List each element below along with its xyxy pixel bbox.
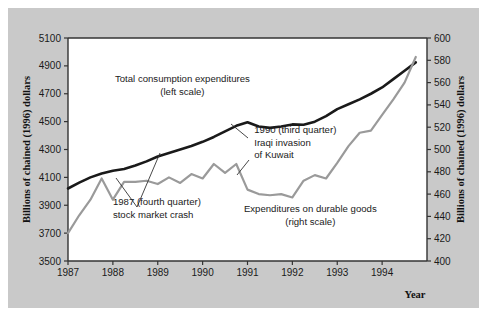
y-tick-label-left: 3900: [39, 200, 62, 211]
y-tick-label-left: 4900: [39, 60, 62, 71]
x-tick-label: 1994: [371, 267, 394, 278]
annotation-line: stock market crash: [113, 209, 194, 220]
x-axis-title: Year: [405, 289, 426, 300]
x-tick-label: 1992: [281, 267, 304, 278]
y-tick-label-right: 520: [434, 122, 451, 133]
annotation-line: of Kuwait: [254, 149, 294, 160]
plot-background: [68, 38, 427, 261]
y-tick-label-right: 580: [434, 55, 451, 66]
x-tick-label: 1988: [102, 267, 125, 278]
y-tick-label-right: 480: [434, 166, 451, 177]
y-tick-label-right: 440: [434, 211, 451, 222]
line-chart-svg: 3500370039004100430045004700490051004004…: [8, 8, 479, 308]
y-tick-label-left: 3500: [39, 256, 62, 267]
annotation-line: Total consumption expenditures: [115, 73, 250, 84]
y-axis-title-right: Billions of chained (1996) dollars: [455, 76, 467, 223]
x-tick-label: 1990: [192, 267, 215, 278]
y-tick-label-left: 4100: [39, 172, 62, 183]
y-tick-label-right: 500: [434, 144, 451, 155]
annotation-line: 1990 (third quarter): [254, 124, 336, 135]
y-tick-label-left: 4700: [39, 88, 62, 99]
annotation-line: Expenditures on durable goods: [244, 203, 377, 214]
figure-panel: 3500370039004100430045004700490051004004…: [8, 8, 479, 308]
y-tick-label-left: 5100: [39, 33, 62, 44]
y-tick-label-right: 460: [434, 189, 451, 200]
annotation-line: Iraqi invasion: [254, 137, 311, 148]
y-tick-label-left: 4300: [39, 144, 62, 155]
x-tick-label: 1989: [147, 267, 170, 278]
annotation-line: (left scale): [160, 86, 204, 97]
y-tick-label-right: 400: [434, 256, 451, 267]
y-tick-label-left: 3700: [39, 228, 62, 239]
y-tick-label-right: 420: [434, 233, 451, 244]
stock-market-crash-label: 1987 (fourth quarter)stock market crash: [113, 196, 201, 220]
annotation-line: 1987 (fourth quarter): [113, 196, 201, 207]
y-tick-label-left: 4500: [39, 116, 62, 127]
x-tick-label: 1993: [326, 267, 349, 278]
chart-canvas: 3500370039004100430045004700490051004004…: [8, 8, 479, 308]
x-tick-label: 1987: [57, 267, 80, 278]
y-tick-label-right: 600: [434, 33, 451, 44]
annotation-line: (right scale): [285, 216, 335, 227]
y-axis-title-left: Billions of chained (1996) dollars: [21, 76, 33, 223]
x-tick-label: 1991: [236, 267, 259, 278]
y-tick-label-right: 560: [434, 77, 451, 88]
y-tick-label-right: 540: [434, 99, 451, 110]
